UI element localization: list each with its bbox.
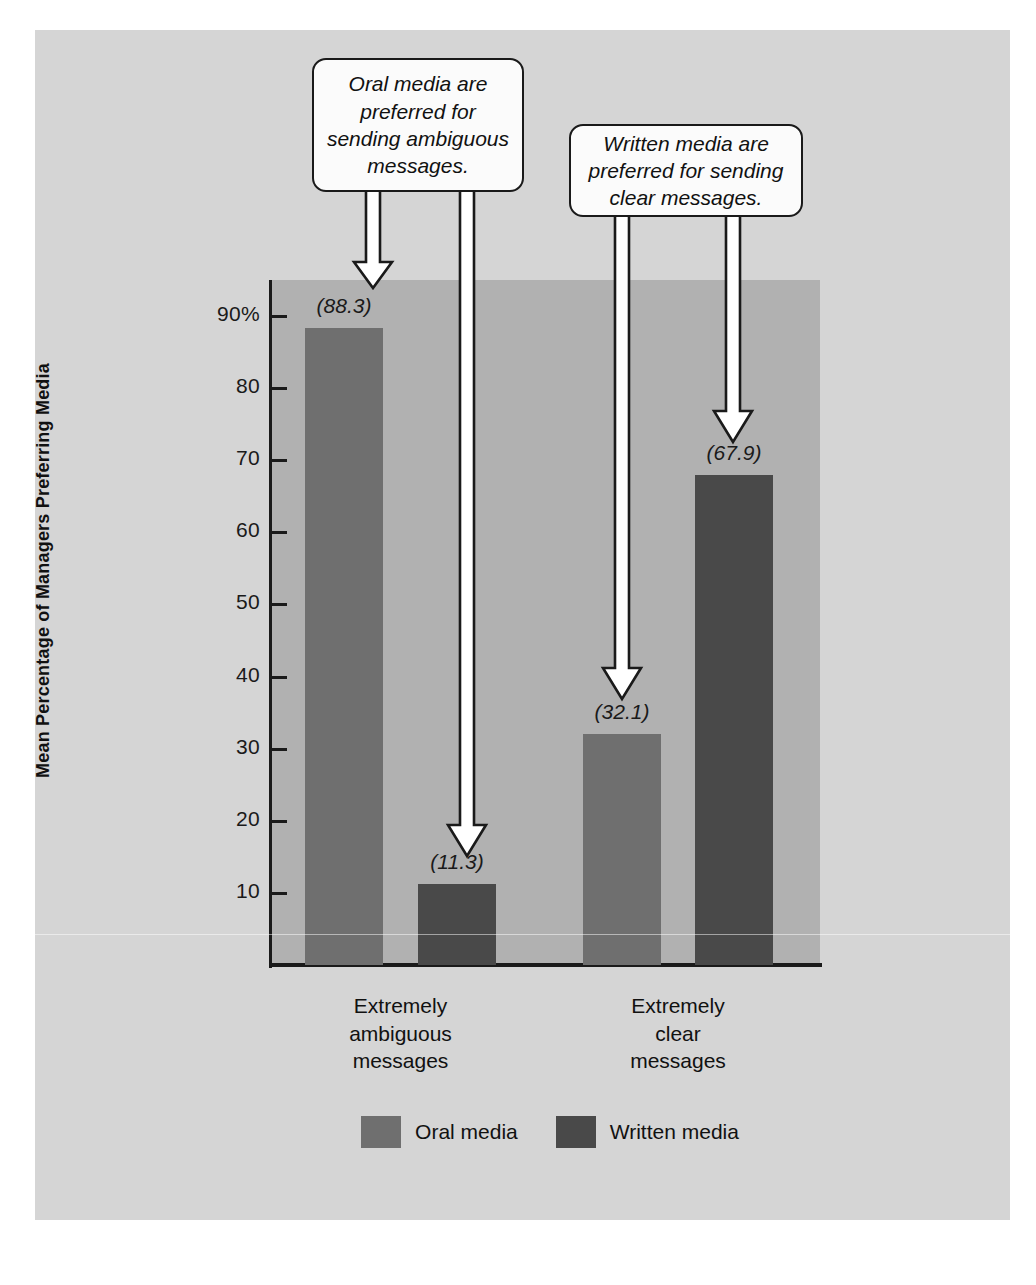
callout-written-media-text: Written media are preferred for sending … [583,130,789,212]
legend-item-oral-media: Oral media [361,1116,518,1148]
bar-written-media-0 [418,884,496,965]
y-axis-line [269,280,272,968]
y-tick-80 [270,387,287,390]
legend-label-0: Oral media [415,1120,518,1144]
y-tick-label-10: 10 [170,879,260,903]
y-tick-10 [270,892,287,895]
callout-oral-media: Oral media are preferred for sending amb… [312,58,524,192]
x-category-line: clear [568,1020,788,1048]
legend-label-1: Written media [610,1120,739,1144]
bar-value-label-oral-media-1: (32.1) [561,700,683,724]
x-category-line: messages [291,1047,511,1075]
paper-seam [0,934,1036,935]
y-tick-30 [270,748,287,751]
bar-value-label-oral-media-0: (88.3) [283,294,405,318]
x-category-1: Extremelyclearmessages [568,992,788,1075]
bar-value-label-written-media-1: (67.9) [673,441,795,465]
y-tick-70 [270,459,287,462]
y-tick-label-70: 70 [170,446,260,470]
x-category-line: Extremely [568,992,788,1020]
callout-oral-media-text: Oral media are preferred for sending amb… [326,70,510,179]
callout-written-media: Written media are preferred for sending … [569,124,803,217]
y-tick-label-80: 80 [170,374,260,398]
y-tick-label-90: 90% [170,302,260,326]
y-tick-label-30: 30 [170,735,260,759]
y-axis-title: Mean Percentage of Managers Preferring M… [33,331,54,811]
y-tick-50 [270,603,287,606]
legend-swatch-0 [361,1116,401,1148]
y-tick-40 [270,676,287,679]
bar-oral-media-1 [583,734,661,965]
y-axis-tick-labels: 90%8070605040302010 [110,0,260,1285]
legend-item-written-media: Written media [556,1116,739,1148]
x-category-line: ambiguous [291,1020,511,1048]
x-category-line: messages [568,1047,788,1075]
y-tick-20 [270,820,287,823]
legend-swatch-1 [556,1116,596,1148]
chart-figure: Mean Percentage of Managers Preferring M… [0,0,1036,1285]
x-category-line: Extremely [291,992,511,1020]
y-tick-60 [270,531,287,534]
bar-written-media-1 [695,475,773,965]
y-tick-label-50: 50 [170,590,260,614]
bar-oral-media-0 [305,328,383,965]
x-category-0: Extremelyambiguousmessages [291,992,511,1075]
y-tick-label-20: 20 [170,807,260,831]
y-tick-label-60: 60 [170,518,260,542]
legend: Oral mediaWritten media [270,1112,830,1152]
y-tick-label-40: 40 [170,663,260,687]
bar-value-label-written-media-0: (11.3) [396,850,518,874]
